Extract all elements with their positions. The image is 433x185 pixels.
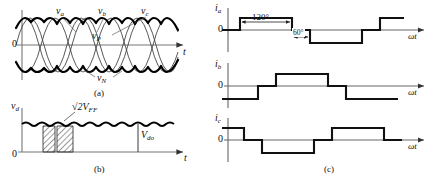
panel-a-plot [16, 10, 183, 80]
label-ic: ic [215, 112, 221, 125]
label-va-subscript: a [60, 10, 64, 18]
curve-vp-envelope [16, 18, 178, 30]
panel-c-tag: (c) [324, 164, 334, 174]
ic-zero-label: 0 [218, 133, 223, 144]
ic-x-axis-label: ωt [408, 141, 417, 151]
panel-a-x-axis-label: t [183, 46, 186, 57]
ia-zero-label: 0 [218, 23, 223, 34]
ib-x-axis-label: ωt [408, 87, 417, 97]
panel-b-y-axis-label: vd [11, 100, 19, 113]
panel-a-tag: (a) [94, 88, 104, 98]
panel-b-plot [18, 108, 183, 152]
hatched-area-2 [57, 126, 73, 152]
panel-b-tag: (b) [94, 164, 105, 174]
label-sqrt2-vff: √2VFF [72, 101, 97, 114]
ia-x-axis-label: ωt [408, 31, 417, 41]
label-vn-subscript: N [101, 77, 106, 85]
label-vdo-subscript: do [147, 134, 154, 142]
figure-three-phase-rectifier-waveforms: 0 t va vb vc vP vN (a) vd 0 t √2VFF Vdo … [0, 0, 433, 185]
panel-b-x-axis-label: t [184, 152, 187, 163]
curve-vn-envelope [16, 60, 178, 72]
label-vc-subscript: c [145, 10, 148, 18]
ib-zero-label: 0 [218, 79, 223, 90]
panel-c-ib-plot [222, 63, 424, 108]
label-ia: ia [215, 2, 221, 15]
label-vff-symbol: √2V [72, 101, 89, 112]
label-vb: vb [98, 5, 106, 18]
panel-a-origin-label: 0 [12, 38, 17, 49]
label-vdo: Vdo [141, 129, 154, 142]
panel-b-y-subscript: d [15, 105, 19, 113]
hatched-area-1 [43, 126, 55, 152]
annotation-60-degrees: 60° [292, 28, 305, 37]
label-vc: vc [141, 5, 149, 18]
leader-vc [112, 17, 146, 35]
panel-b-origin-label: 0 [12, 148, 17, 159]
label-va: va [56, 5, 64, 18]
figure-canvas [0, 0, 433, 185]
label-vb-subscript: b [102, 10, 106, 18]
annotation-120-degrees: 120° [252, 12, 269, 22]
panel-c-ic-plot [222, 118, 424, 162]
label-ib-subscript: b [218, 63, 222, 71]
label-vp-subscript: P [96, 35, 100, 43]
curve-vd-ripple [22, 123, 174, 127]
label-vp: vP [92, 30, 101, 43]
label-ia-subscript: a [218, 7, 222, 15]
label-ib: ib [215, 58, 221, 71]
label-vn: vN [97, 72, 106, 85]
label-vff-subscript: FF [89, 106, 98, 114]
label-ic-subscript: c [218, 117, 221, 125]
